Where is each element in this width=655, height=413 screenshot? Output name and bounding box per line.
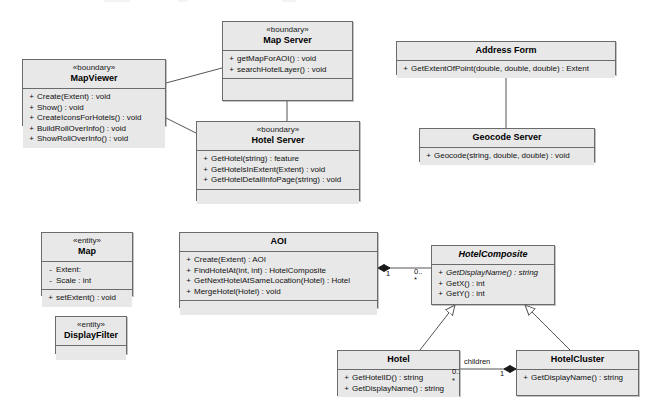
- uml-class-diagram-canvas: «boundary» Map Server + getMapForAOI() :…: [0, 0, 655, 413]
- scan-artifact-mid: [178, 0, 188, 2]
- class-name: MapViewer: [27, 73, 161, 84]
- visibility-marker: +: [26, 134, 37, 145]
- operation-row: + Create(Extent) : AOI: [183, 255, 375, 266]
- attribute-row: - Scale : int: [45, 276, 130, 287]
- operation-row: + GetDisplayName() : string: [341, 384, 457, 395]
- visibility-marker: +: [200, 165, 211, 176]
- class-box-hotel-composite[interactable]: HotelComposite + GetDisplayName() : stri…: [431, 245, 555, 305]
- visibility-marker: +: [435, 268, 446, 279]
- multiplicity-aoi-end: 1: [386, 270, 390, 279]
- operations-compartment-hotel: + GetHotelID() : string + GetDisplayName…: [338, 370, 459, 397]
- operation-row: + searchHotelLayer() : void: [226, 65, 350, 76]
- operation-signature: GetDisplayName() : string: [446, 268, 538, 279]
- edge-mapviewer-mapserver: [166, 68, 222, 83]
- class-name: HotelCluster: [521, 354, 634, 365]
- class-box-hotel-server[interactable]: «boundary» Hotel Server + GetHotel(strin…: [196, 121, 360, 201]
- visibility-marker: +: [45, 293, 56, 304]
- operation-row: + getMapForAOI() : void: [226, 54, 350, 65]
- class-name: Hotel Server: [201, 135, 355, 146]
- class-box-map[interactable]: «entity» Map - Extent: - Scale : int + s…: [41, 232, 133, 296]
- operation-signature: GetHotelDetailInfoPage(string) : void: [211, 175, 341, 186]
- class-header-map: «entity» Map: [42, 233, 132, 262]
- class-header-hotel-composite: HotelComposite: [432, 246, 554, 265]
- multiplicity-hotel-end-bottom: *: [452, 377, 455, 386]
- visibility-marker: +: [341, 384, 352, 395]
- visibility-marker: +: [183, 266, 194, 277]
- operation-signature: GetDisplayName() : string: [352, 384, 444, 395]
- class-box-hotel[interactable]: Hotel + GetHotelID() : string + GetDispl…: [337, 350, 460, 396]
- operations-compartment-aoi: + Create(Extent) : AOI + FindHotelAt(int…: [180, 252, 377, 301]
- visibility-marker: +: [520, 373, 531, 384]
- operation-signature: GetHotelsInExtent(Extent) : void: [211, 165, 325, 176]
- class-box-display-filter[interactable]: «entity» DisplayFilter: [55, 316, 127, 354]
- attribute-signature: Scale : int: [56, 276, 91, 287]
- visibility-marker: +: [226, 54, 237, 65]
- class-box-aoi[interactable]: AOI + Create(Extent) : AOI + FindHotelAt…: [179, 232, 378, 308]
- class-stereotype: «entity»: [60, 320, 122, 330]
- operation-signature: Show() : void: [37, 103, 84, 114]
- class-stereotype: «boundary»: [201, 125, 355, 135]
- operation-row: + GetNextHotelAtSameLocation(Hotel) : Ho…: [183, 276, 375, 287]
- class-box-address-form[interactable]: Address Form + GetExtentOfPoint(double, …: [396, 41, 616, 75]
- operation-signature: BuildRollOverInfo() : void: [37, 124, 126, 135]
- visibility-marker: +: [183, 255, 194, 266]
- multiplicity-hotelcluster-end: 1: [500, 370, 504, 379]
- operation-signature: GetNextHotelAtSameLocation(Hotel) : Hote…: [194, 276, 350, 287]
- operation-row: + Show() : void: [26, 103, 163, 114]
- operation-signature: Create(Extent) : void: [37, 92, 110, 103]
- visibility-marker: +: [423, 151, 434, 162]
- composition-diamond-hotelcluster: [504, 366, 516, 373]
- empty-compartment-display-filter: [56, 346, 126, 360]
- empty-compartment-aoi: [180, 301, 377, 315]
- operation-signature: GetExtentOfPoint(double, double, double)…: [411, 64, 589, 75]
- visibility-marker: +: [400, 64, 411, 75]
- operations-compartment-map-server: + getMapForAOI() : void + searchHotelLay…: [223, 51, 352, 79]
- visibility-marker: +: [26, 113, 37, 124]
- attributes-compartment-map: - Extent: - Scale : int: [42, 262, 132, 290]
- operation-signature: ShowRollOverInfo() : void: [37, 134, 128, 145]
- class-header-geocode-server: Geocode Server: [420, 129, 594, 148]
- role-label-children: children: [464, 358, 490, 367]
- operation-row: + GetExtentOfPoint(double, double, doubl…: [400, 64, 613, 75]
- operation-signature: Create(Extent) : AOI: [194, 255, 266, 266]
- operation-row: + BuildRollOverInfo() : void: [26, 124, 163, 135]
- operation-row: + CreateIconsForHotels() : void: [26, 113, 163, 124]
- operation-row: + GetHotel(string) : feature: [200, 154, 357, 165]
- operation-signature: GetHotelID() : string: [352, 373, 423, 384]
- operation-row: + Geocode(string, double, double) : void: [423, 151, 592, 162]
- operation-row: + GetHotelDetailInfoPage(string) : void: [200, 175, 357, 186]
- operation-row: + Create(Extent) : void: [26, 92, 163, 103]
- class-header-hotel: Hotel: [338, 351, 459, 370]
- operation-signature: GetX() : int: [446, 279, 485, 290]
- operation-row: + GetY() : int: [435, 289, 552, 300]
- operation-row: + GetX() : int: [435, 279, 552, 290]
- class-box-hotel-cluster[interactable]: HotelCluster + GetDisplayName() : string: [516, 350, 639, 396]
- empty-compartment-map-server: [223, 79, 352, 93]
- visibility-marker: +: [435, 279, 446, 290]
- operations-compartment-hotel-server: + GetHotel(string) : feature + GetHotels…: [197, 151, 359, 190]
- visibility-marker: +: [200, 154, 211, 165]
- edge-mapviewer-hotelserver: [166, 118, 196, 133]
- edge-hotelcluster-generalization: [525, 305, 570, 350]
- class-box-geocode-server[interactable]: Geocode Server + Geocode(string, double,…: [419, 128, 595, 162]
- operation-signature: FindHotelAt(int, int) : HotelComposite: [194, 266, 326, 277]
- class-name: AOI: [184, 236, 373, 247]
- visibility-marker: +: [183, 287, 194, 298]
- visibility-marker: +: [26, 92, 37, 103]
- visibility-marker: +: [26, 124, 37, 135]
- visibility-marker: +: [226, 65, 237, 76]
- attribute-row: - Extent:: [45, 265, 130, 276]
- visibility-marker: -: [45, 265, 56, 276]
- class-box-map-server[interactable]: «boundary» Map Server + getMapForAOI() :…: [222, 21, 353, 101]
- class-header-display-filter: «entity» DisplayFilter: [56, 317, 126, 346]
- class-stereotype: «boundary»: [227, 25, 348, 35]
- class-header-aoi: AOI: [180, 233, 377, 252]
- class-name: Hotel: [342, 354, 455, 365]
- class-stereotype: «boundary»: [27, 63, 161, 73]
- operation-row: + GetHotelID() : string: [341, 373, 457, 384]
- visibility-marker: -: [45, 276, 56, 287]
- class-header-map-server: «boundary» Map Server: [223, 22, 352, 51]
- operations-compartment-hotel-cluster: + GetDisplayName() : string: [517, 370, 638, 387]
- class-box-map-viewer[interactable]: «boundary» MapViewer + Create(Extent) : …: [22, 59, 166, 126]
- class-name: Map: [46, 246, 128, 257]
